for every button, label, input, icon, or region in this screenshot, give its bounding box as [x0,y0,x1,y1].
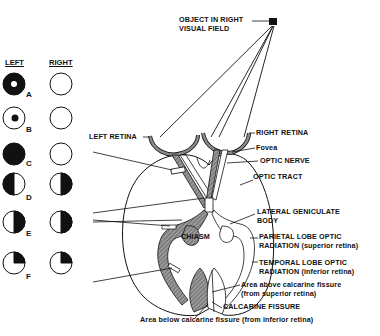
legend-letter-f: F [26,272,31,281]
object-square [269,18,277,25]
legend-circles [3,73,72,274]
legend-letter-c: C [26,159,32,168]
parietal-radiation-label: PARIETAL LOBE OPTIC RADIATION (superior … [259,233,358,250]
optic-tract-label: OPTIC TRACT [253,173,302,182]
object-label: OBJECT IN RIGHT VISUAL FIELD [179,16,243,33]
right-retina-label: RIGHT RETINA [256,129,308,138]
left-retina [150,135,198,154]
left-retina-label: LEFT RETINA [89,133,137,142]
temporal-radiation-label: TEMPORAL LOBE OPTIC RADIATION (inferior … [259,259,354,276]
lateral-geniculate-label: LATERAL GENICULATE BODY [257,208,340,225]
optic-nerve-label: OPTIC NERVE [260,157,310,166]
legend-letter-a: A [26,90,32,99]
legend-letter-b: B [26,125,32,134]
fovea-label: Fovea [256,144,277,153]
chiasm-label: CHIASM [181,233,210,242]
calcarine-fissure-label: CALCARINE FISSURE [223,303,300,312]
legend-letter-e: E [26,229,31,238]
legend-letter-d: D [26,193,32,202]
chiasm [205,198,213,212]
light-rays [160,26,274,137]
legend-header-right: RIGHT [49,58,73,67]
left-visual-cortex [190,268,209,312]
legend-header-left: LEFT [5,58,24,67]
area-above-calcarine-label: Area above calcarine fissure (from super… [241,281,341,298]
area-below-calcarine-label: Area below calcarine fissure (from infer… [140,316,313,325]
